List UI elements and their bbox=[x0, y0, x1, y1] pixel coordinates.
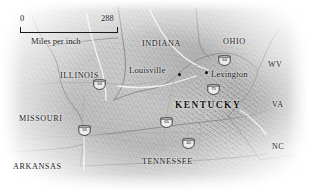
state-label-indiana: INDIANA bbox=[142, 40, 181, 48]
state-label-arkansas: ARKANSAS bbox=[13, 163, 62, 171]
interstate-shield-icon-i75-kentucky: 75 bbox=[207, 84, 220, 95]
scale-bar-caption: Miles per inch bbox=[31, 37, 81, 46]
scale-bar-tick-right bbox=[117, 27, 118, 33]
interstate-shield-icon-i65-kentucky: 65 bbox=[160, 117, 173, 128]
shield-number: 40 bbox=[182, 141, 195, 145]
interstate-shield-icon-i55-missouri: 55 bbox=[78, 125, 91, 136]
state-label-ohio: OHIO bbox=[223, 38, 246, 46]
scale-bar-min-label: 0 bbox=[20, 15, 24, 23]
interstate-shield-icon-i40-tennessee: 40 bbox=[182, 138, 195, 149]
state-label-va: VA bbox=[272, 101, 283, 109]
shield-number: 64 bbox=[218, 58, 231, 62]
city-label-louisville: Louisville bbox=[129, 66, 165, 75]
state-label-missouri: MISSOURI bbox=[19, 115, 63, 123]
scale-bar-tick-left bbox=[20, 27, 21, 33]
relief-map: 0 288 Miles per inch ILLINOIS INDIANA OH… bbox=[0, 0, 309, 191]
state-label-nc: NC bbox=[272, 143, 284, 151]
shield-number: 65 bbox=[160, 120, 173, 124]
scale-bar bbox=[20, 27, 118, 33]
interstate-shield-icon-i64-kentucky: 64 bbox=[218, 55, 231, 66]
interstate-shield-icon-i64-illinois: 64 bbox=[93, 79, 106, 90]
shield-number: 75 bbox=[207, 87, 220, 91]
state-label-wv: WV bbox=[268, 61, 282, 69]
shield-number: 64 bbox=[93, 82, 106, 86]
state-label-kentucky: KENTUCKY bbox=[175, 101, 241, 110]
state-label-tennessee: TENNESSEE bbox=[142, 158, 193, 166]
scale-bar-max-label: 288 bbox=[101, 15, 114, 23]
scale-bar-rule bbox=[20, 32, 118, 33]
shield-number: 55 bbox=[78, 128, 91, 132]
city-label-lexington: Lexington bbox=[211, 70, 248, 79]
